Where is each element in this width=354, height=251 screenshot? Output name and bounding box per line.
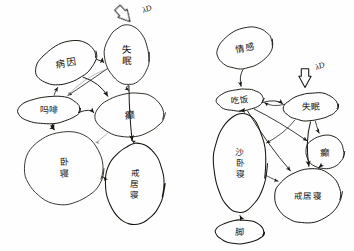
node-label: 寝 — [59, 168, 69, 179]
node-label: 寝 — [236, 169, 245, 179]
node-label: 眠 — [122, 55, 133, 66]
node-left-middle-left[interactable]: 吗啡 — [18, 96, 81, 124]
node-label: 沙 — [235, 147, 245, 158]
node-label: 寝 — [130, 190, 139, 200]
node-label: 脚 — [235, 227, 245, 238]
annotation-label: λD — [313, 60, 326, 72]
node-right-upper-middle[interactable]: 吃饭 — [216, 89, 264, 111]
node-label: 癫 — [124, 108, 135, 121]
node-label: 吃饭 — [230, 94, 250, 106]
lambda-d-annotation-left: λD — [113, 3, 153, 25]
node-right-bottom-right[interactable]: 戒居寝 — [275, 169, 343, 223]
node-left-top-right[interactable]: 失眠 — [104, 25, 149, 85]
diagram-canvas: 病因失眠吗啡癫卧寝戒居寝 情感吃饭失眠癫沙卧寝戒居寝脚 λDλD — [0, 0, 354, 251]
node-label: 病因 — [55, 56, 77, 70]
edge-R3-R4 — [315, 121, 319, 133]
node-label: 癫 — [320, 146, 330, 157]
node-right-upper-right[interactable]: 失眠 — [283, 93, 338, 121]
diagram-scene: 病因失眠吗啡癫卧寝戒居寝 情感吃饭失眠癫沙卧寝戒居寝脚 λDλD — [0, 0, 354, 251]
node-label: 戒 — [131, 168, 140, 178]
node-right-tall-left[interactable]: 沙卧寝 — [213, 113, 267, 212]
edge-R2-R6 — [248, 111, 291, 171]
node-label: 卧 — [60, 156, 69, 167]
node-label: 居 — [130, 179, 139, 189]
node-right-top[interactable]: 情感 — [217, 27, 273, 69]
edge-L1-L2 — [96, 58, 102, 61]
node-label: 吗啡 — [40, 104, 59, 115]
annotation-label: λD — [140, 3, 153, 15]
edge-L3-L4 — [80, 110, 94, 112]
node-label: 戒居寝 — [294, 191, 322, 201]
node-right-middle-right[interactable]: 癫 — [306, 135, 345, 169]
node-left-bottom-left[interactable]: 卧寝 — [24, 132, 104, 205]
node-right-bottom-small[interactable]: 脚 — [215, 220, 264, 244]
node-label: 失眠 — [301, 101, 320, 113]
edge-L4-L5-faint — [96, 133, 108, 142]
edge-L3-L1 — [54, 87, 58, 95]
node-label: 失 — [121, 43, 131, 54]
node-label: 卧 — [236, 158, 245, 168]
edge-R1-R2 — [240, 70, 243, 87]
lambda-d-annotation-right: λD — [299, 60, 326, 87]
node-left-bottom-right[interactable]: 戒居寝 — [105, 143, 165, 224]
node-label: 情感 — [235, 40, 256, 54]
edge-L1-L4 — [83, 77, 108, 96]
node-left-middle-right[interactable]: 癫 — [95, 93, 166, 137]
edge-R5-R6 — [266, 175, 278, 181]
block-arrow-icon — [113, 4, 135, 26]
block-arrow-icon — [299, 69, 311, 88]
left-diagram-nodes: 病因失眠吗啡癫卧寝戒居寝 — [18, 25, 166, 225]
edge-R7-R5 — [240, 216, 241, 220]
